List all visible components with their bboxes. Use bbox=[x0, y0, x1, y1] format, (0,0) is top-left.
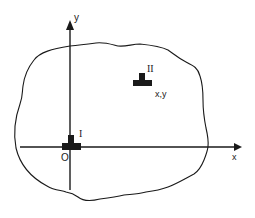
y-axis-label: y bbox=[74, 12, 79, 23]
object-II-position-label: x,y bbox=[155, 89, 167, 99]
object-II-marker bbox=[133, 73, 152, 86]
region-outline bbox=[15, 43, 209, 201]
x-axis-label: x bbox=[232, 152, 237, 162]
x-axis-arrow-icon bbox=[234, 143, 242, 151]
object-I-label: I bbox=[79, 128, 82, 139]
origin-label: O bbox=[61, 152, 69, 163]
object-II-label: II bbox=[147, 63, 154, 74]
y-axis-arrow-icon bbox=[66, 20, 74, 30]
coordinate-diagram: y x O I II x,y bbox=[0, 0, 255, 218]
